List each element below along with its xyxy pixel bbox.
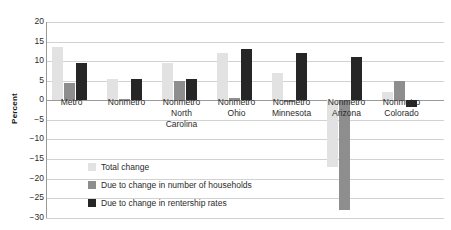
legend-item: Due to change in rentership rates xyxy=(88,194,388,212)
bar xyxy=(272,73,283,100)
y-axis-tick-label: −30 xyxy=(18,213,44,222)
x-axis-category-label: Nonmetro xyxy=(97,97,156,108)
bar xyxy=(52,47,63,100)
legend-swatch-icon xyxy=(88,181,96,189)
legend-swatch-icon xyxy=(88,199,96,207)
y-axis-tick-label: −5 xyxy=(18,115,44,124)
legend-swatch-icon xyxy=(88,163,96,171)
y-axis-tick-label: 0 xyxy=(18,95,44,104)
legend-item: Due to change in number of households xyxy=(88,176,388,194)
x-axis-category-label: Nonmetro North Carolina xyxy=(152,97,211,130)
legend-label: Due to change in number of households xyxy=(101,181,252,190)
y-axis-tick-label: −25 xyxy=(18,193,44,202)
x-axis-category-label: Nonmetro Arizona xyxy=(317,97,376,119)
legend-label: Due to change in rentership rates xyxy=(101,199,227,208)
bar-chart: Percent 20151050−5−10−15−20−25−30 MetroN… xyxy=(0,0,451,230)
x-axis-category-label: Nonmetro Colorado xyxy=(372,97,431,119)
legend-item: Total change xyxy=(88,158,388,176)
bar xyxy=(351,57,362,100)
y-axis-tick-label: −20 xyxy=(18,174,44,183)
bar xyxy=(241,49,252,100)
y-axis-line xyxy=(46,22,47,218)
x-axis-category-label: Nonmetro Ohio xyxy=(207,97,266,119)
bar xyxy=(76,63,87,100)
y-axis-tick-label: 5 xyxy=(18,76,44,85)
x-axis-category-label: Nonmetro Minnesota xyxy=(262,97,321,119)
y-axis-tick-label: −15 xyxy=(18,154,44,163)
legend-label: Total change xyxy=(101,163,149,172)
y-axis-tick-label: 10 xyxy=(18,56,44,65)
y-axis-tick-labels: 20151050−5−10−15−20−25−30 xyxy=(0,0,44,230)
bar xyxy=(217,53,228,100)
bar xyxy=(296,53,307,100)
y-axis-tick-label: −10 xyxy=(18,134,44,143)
y-axis-tick-label: 20 xyxy=(18,17,44,26)
y-axis-tick-label: 15 xyxy=(18,37,44,46)
bar xyxy=(162,63,173,100)
x-axis-category-label: Metro xyxy=(42,97,101,108)
legend: Total changeDue to change in number of h… xyxy=(88,158,388,212)
